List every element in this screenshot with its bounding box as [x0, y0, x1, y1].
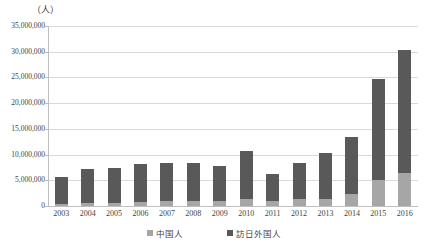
x-axis-tick-label: 2009: [207, 209, 233, 218]
bar-group[interactable]: [372, 79, 385, 206]
x-axis-tick-label: 2007: [154, 209, 180, 218]
bar-segment-foreign-visitors[interactable]: [213, 166, 226, 201]
bar-segment-chinese-visitors[interactable]: [293, 199, 306, 206]
bar-segment-chinese-visitors[interactable]: [213, 201, 226, 206]
x-axis-tick-label: 2003: [48, 209, 74, 218]
y-axis-tick-labels: 05,000,00010,000,00015,000,00020,000,000…: [0, 0, 45, 245]
bar-segment-chinese-visitors[interactable]: [187, 201, 200, 206]
y-axis-tick-label: 25,000,000: [0, 72, 45, 81]
bar-segment-chinese-visitors[interactable]: [134, 202, 147, 206]
bar-segment-foreign-visitors[interactable]: [55, 177, 68, 204]
x-axis-tick-label: 2011: [259, 209, 285, 218]
bar-group[interactable]: [108, 168, 121, 206]
legend-swatch-icon: [227, 230, 233, 236]
chart-container: （人） 05,000,00010,000,00015,000,00020,000…: [0, 0, 428, 245]
bar-segment-chinese-visitors[interactable]: [372, 180, 385, 206]
x-axis-tick-label: 2015: [365, 209, 391, 218]
x-axis-tick-label: 2008: [180, 209, 206, 218]
legend-item[interactable]: 訪日外国人: [227, 227, 281, 239]
y-axis-tick-label: 30,000,000: [0, 47, 45, 56]
bar-segment-chinese-visitors[interactable]: [319, 199, 332, 206]
bar-segment-foreign-visitors[interactable]: [293, 163, 306, 199]
bar-segment-foreign-visitors[interactable]: [372, 79, 385, 181]
bar-segment-chinese-visitors[interactable]: [345, 194, 358, 206]
bar-group[interactable]: [398, 50, 411, 206]
bar-segment-foreign-visitors[interactable]: [108, 168, 121, 203]
bar-group[interactable]: [160, 163, 173, 206]
bar-segment-foreign-visitors[interactable]: [187, 163, 200, 201]
bar-segment-foreign-visitors[interactable]: [319, 153, 332, 199]
y-axis-tick-label: 35,000,000: [0, 21, 45, 30]
legend-label: 訪日外国人: [236, 227, 281, 239]
bar-segment-chinese-visitors[interactable]: [266, 201, 279, 206]
x-axis-tick-label: 2012: [286, 209, 312, 218]
bar-segment-chinese-visitors[interactable]: [160, 201, 173, 206]
bar-group[interactable]: [293, 163, 306, 206]
bar-segment-foreign-visitors[interactable]: [160, 163, 173, 201]
bar-series-group: [48, 26, 418, 207]
bar-group[interactable]: [213, 166, 226, 206]
x-axis-tick-label: 2006: [127, 209, 153, 218]
bar-segment-foreign-visitors[interactable]: [134, 164, 147, 202]
bar-group[interactable]: [319, 153, 332, 206]
bar-segment-chinese-visitors[interactable]: [55, 204, 68, 206]
bar-group[interactable]: [134, 164, 147, 206]
y-axis-tick-label: 20,000,000: [0, 98, 45, 107]
bar-group[interactable]: [345, 137, 358, 206]
bar-segment-foreign-visitors[interactable]: [81, 169, 94, 203]
bar-group[interactable]: [266, 174, 279, 206]
x-axis-tick-label: 2013: [312, 209, 338, 218]
x-axis-tick-label: 2016: [392, 209, 418, 218]
bar-group[interactable]: [81, 169, 94, 206]
x-axis-tick-label: 2005: [101, 209, 127, 218]
x-axis-tick-label: 2004: [74, 209, 100, 218]
y-axis-tick-label: 10,000,000: [0, 150, 45, 159]
bar-group[interactable]: [55, 177, 68, 206]
plot-area: [48, 26, 418, 207]
bar-segment-chinese-visitors[interactable]: [108, 203, 121, 206]
legend-item[interactable]: 中国人: [147, 227, 183, 239]
x-axis-tick-label: 2014: [339, 209, 365, 218]
bar-segment-foreign-visitors[interactable]: [240, 151, 253, 198]
bar-group[interactable]: [240, 151, 253, 206]
legend-label: 中国人: [156, 227, 183, 239]
legend-swatch-icon: [147, 230, 153, 236]
chart-legend: 中国人訪日外国人: [0, 227, 428, 239]
y-axis-tick-label: 0: [0, 201, 45, 210]
x-axis-tick-label: 2010: [233, 209, 259, 218]
bar-segment-chinese-visitors[interactable]: [81, 203, 94, 206]
bar-segment-chinese-visitors[interactable]: [240, 199, 253, 206]
y-axis-tick-label: 15,000,000: [0, 124, 45, 133]
bar-segment-foreign-visitors[interactable]: [345, 137, 358, 194]
bar-group[interactable]: [187, 163, 200, 206]
x-axis-tick-labels: 2003200420052006200720082009201020112012…: [48, 209, 418, 225]
bar-segment-foreign-visitors[interactable]: [266, 174, 279, 201]
bar-segment-chinese-visitors[interactable]: [398, 173, 411, 206]
bar-segment-foreign-visitors[interactable]: [398, 50, 411, 174]
y-axis-tick-label: 5,000,000: [0, 175, 45, 184]
